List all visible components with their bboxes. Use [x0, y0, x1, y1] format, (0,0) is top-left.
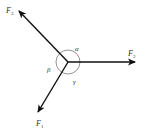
- force-diagram: F3 F2 F1 α β γ: [0, 0, 145, 131]
- force-diagram-svg: F3 F2 F1 α β γ: [0, 0, 145, 131]
- label-f2: F2: [127, 49, 136, 59]
- label-f3: F3: [5, 6, 14, 16]
- label-f1: F1: [35, 119, 44, 129]
- angle-gamma: γ: [73, 78, 76, 86]
- angle-beta: β: [46, 66, 51, 74]
- vector-f1: [38, 62, 68, 112]
- angle-alpha: α: [75, 45, 79, 53]
- vector-f3: [19, 11, 68, 62]
